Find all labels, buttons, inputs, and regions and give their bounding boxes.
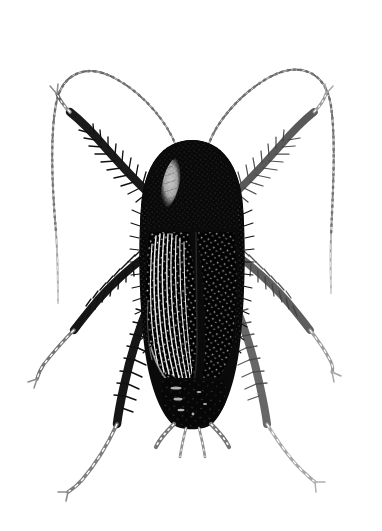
cockroach-illustration [0,0,382,531]
illustration-canvas: Black and white stippled scientific illu… [0,0,382,531]
